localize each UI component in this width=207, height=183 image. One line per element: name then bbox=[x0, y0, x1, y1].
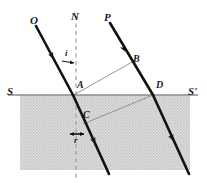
label-normal: N bbox=[71, 11, 79, 22]
incident-ray-p-arrow bbox=[114, 31, 124, 49]
label-surface-right: S' bbox=[188, 86, 197, 97]
incident-ray-o bbox=[36, 26, 73, 95]
denser-medium-region bbox=[20, 95, 190, 170]
label-incident-ray-p: P bbox=[104, 12, 111, 23]
angle-i-marker bbox=[62, 61, 74, 63]
label-point-d: D bbox=[156, 80, 163, 90]
incident-ray-p bbox=[110, 23, 153, 95]
label-angle-r: r bbox=[74, 136, 78, 145]
label-angle-i: i bbox=[65, 49, 68, 58]
incident-ray-o-arrow bbox=[43, 39, 52, 56]
refraction-diagram: O N P B A D S S' C i r bbox=[0, 0, 207, 183]
label-incident-ray-o: O bbox=[30, 15, 38, 26]
label-surface-left: S bbox=[7, 86, 13, 97]
diagram-canvas bbox=[0, 0, 207, 183]
label-point-c: C bbox=[83, 110, 90, 120]
label-point-b: B bbox=[133, 54, 140, 64]
label-point-a: A bbox=[77, 80, 84, 90]
